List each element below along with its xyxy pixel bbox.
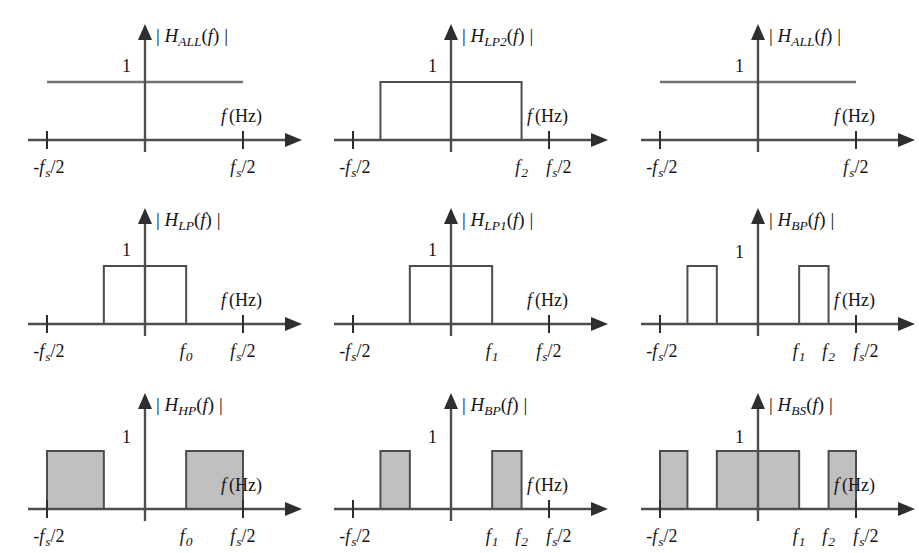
svg-text:f0: f0 <box>180 341 193 364</box>
panel-title: | HBP(f) | <box>769 209 834 233</box>
tick-label-fs-half: fs/2 <box>547 526 572 549</box>
tick-label-neg-fs-half: -fs/2 <box>646 341 677 364</box>
svg-text:-fs/2: -fs/2 <box>33 341 64 364</box>
svg-text:fs/2: fs/2 <box>547 157 572 180</box>
svg-text:-fs/2: -fs/2 <box>646 341 677 364</box>
tick-label-neg-fs-half: -fs/2 <box>340 526 371 549</box>
svg-text:f(Hz): f(Hz) <box>834 106 875 127</box>
tick-label-fs-half: fs/2 <box>547 157 572 180</box>
tick-label-f2: f2 <box>516 526 529 549</box>
svg-text:f2: f2 <box>822 341 835 364</box>
panel-4: 1| HLP(f) |f(Hz)-fs/2f0fs/2 <box>0 184 306 368</box>
passband-rect <box>381 451 410 509</box>
tick-label-fs-half: fs/2 <box>843 157 868 180</box>
svg-text:f(Hz): f(Hz) <box>834 290 875 311</box>
svg-text:| HALL(f) |: | HALL(f) | <box>156 25 228 49</box>
svg-text:f1: f1 <box>792 526 805 549</box>
passband-rect <box>660 451 687 509</box>
amplitude-label-one: 1 <box>428 427 437 447</box>
tick-labels: -fs/2f1f2fs/2 <box>646 526 878 549</box>
svg-text:-fs/2: -fs/2 <box>340 526 371 549</box>
amplitude-label-one: 1 <box>428 240 437 260</box>
amplitude-label-one: 1 <box>122 427 131 447</box>
panel-3: 1| HALL(f) |f(Hz)-fs/2fs/2 <box>613 0 919 184</box>
svg-text:f0: f0 <box>180 526 193 549</box>
svg-text:| HBS(f) |: | HBS(f) | <box>769 394 833 418</box>
passband-rect <box>47 451 104 509</box>
tick-label-f0: f0 <box>180 526 193 549</box>
svg-text:-fs/2: -fs/2 <box>646 157 677 180</box>
svg-text:f(Hz): f(Hz) <box>527 290 568 311</box>
tick-label-f2: f2 <box>822 526 835 549</box>
tick-labels: -fs/2f0fs/2 <box>33 526 255 549</box>
svg-text:| HBP(f) |: | HBP(f) | <box>462 394 527 418</box>
svg-text:-fs/2: -fs/2 <box>33 526 64 549</box>
passband-rect <box>687 266 716 324</box>
y-axis-arrowhead <box>444 393 458 409</box>
svg-text:| HLP1(f) |: | HLP1(f) | <box>462 209 533 233</box>
amplitude-label-one: 1 <box>735 427 744 447</box>
y-axis-arrowhead <box>138 24 152 40</box>
panel-title: | HLP(f) | <box>156 209 221 233</box>
tick-labels: -fs/2fs/2 <box>33 157 255 180</box>
x-axis-arrowhead <box>898 133 915 147</box>
svg-text:fs/2: fs/2 <box>843 157 868 180</box>
tick-label-f1: f1 <box>486 341 499 364</box>
x-axis-label: f(Hz) <box>834 290 875 311</box>
amplitude-label-one: 1 <box>428 56 437 76</box>
filter-response-figure: 1| HALL(f) |f(Hz)-fs/2fs/21| HLP2(f) |f(… <box>0 0 919 553</box>
tick-labels: -fs/2f2fs/2 <box>340 157 572 180</box>
panel-7: 1| HHP(f) |f(Hz)-fs/2f0fs/2 <box>0 369 306 553</box>
svg-text:f2: f2 <box>516 526 529 549</box>
tick-label-neg-fs-half: -fs/2 <box>33 341 64 364</box>
svg-text:-fs/2: -fs/2 <box>340 341 371 364</box>
svg-text:fs/2: fs/2 <box>230 526 255 549</box>
tick-label-neg-fs-half: -fs/2 <box>340 157 371 180</box>
y-axis-arrowhead <box>444 208 458 224</box>
tick-label-fs-half: fs/2 <box>853 526 878 549</box>
amplitude-label-one: 1 <box>735 242 744 262</box>
y-axis-arrowhead <box>444 24 458 40</box>
passband-rect <box>492 451 521 509</box>
x-axis-arrowhead <box>591 133 608 147</box>
svg-text:fs/2: fs/2 <box>547 526 572 549</box>
x-axis-arrowhead <box>898 317 915 331</box>
amplitude-label-one: 1 <box>122 240 131 260</box>
svg-text:fs/2: fs/2 <box>853 341 878 364</box>
tick-label-fs-half: fs/2 <box>230 157 255 180</box>
panel-title: | HLP1(f) | <box>462 209 533 233</box>
panel-1: 1| HALL(f) |f(Hz)-fs/2fs/2 <box>0 0 306 184</box>
y-axis-arrowhead <box>751 208 765 224</box>
tick-label-fs-half: fs/2 <box>230 526 255 549</box>
x-axis-arrowhead <box>591 502 608 516</box>
svg-text:| HBP(f) |: | HBP(f) | <box>769 209 834 233</box>
svg-text:f(Hz): f(Hz) <box>221 290 262 311</box>
panel-title: | HALL(f) | <box>769 25 841 49</box>
svg-text:f(Hz): f(Hz) <box>527 475 568 496</box>
x-axis-label: f(Hz) <box>527 475 568 496</box>
tick-labels: -fs/2f1fs/2 <box>340 341 562 364</box>
tick-label-f1: f1 <box>792 341 805 364</box>
svg-text:fs/2: fs/2 <box>537 341 562 364</box>
panel-2: 1| HLP2(f) |f(Hz)-fs/2f2fs/2 <box>306 0 612 184</box>
y-axis-arrowhead <box>751 24 765 40</box>
tick-label-fs-half: fs/2 <box>537 341 562 364</box>
svg-text:-fs/2: -fs/2 <box>646 526 677 549</box>
svg-text:-fs/2: -fs/2 <box>33 157 64 180</box>
panel-9: 1| HBS(f) |f(Hz)-fs/2f1f2fs/2 <box>613 369 919 553</box>
tick-label-neg-fs-half: -fs/2 <box>33 526 64 549</box>
amplitude-label-one: 1 <box>122 56 131 76</box>
x-axis-arrowhead <box>898 502 915 516</box>
tick-labels: -fs/2f1f2fs/2 <box>340 526 572 549</box>
tick-label-f1: f1 <box>486 526 499 549</box>
tick-label-f2: f2 <box>516 157 529 180</box>
panel-6: 1| HBP(f) |f(Hz)-fs/2f1f2fs/2 <box>613 184 919 368</box>
svg-text:f2: f2 <box>516 157 529 180</box>
panel-title: | HHP(f) | <box>156 394 223 418</box>
svg-text:f1: f1 <box>792 341 805 364</box>
svg-text:-fs/2: -fs/2 <box>340 157 371 180</box>
tick-label-neg-fs-half: -fs/2 <box>646 526 677 549</box>
tick-labels: -fs/2f0fs/2 <box>33 341 255 364</box>
tick-label-neg-fs-half: -fs/2 <box>33 157 64 180</box>
panel-title: | HBS(f) | <box>769 394 833 418</box>
